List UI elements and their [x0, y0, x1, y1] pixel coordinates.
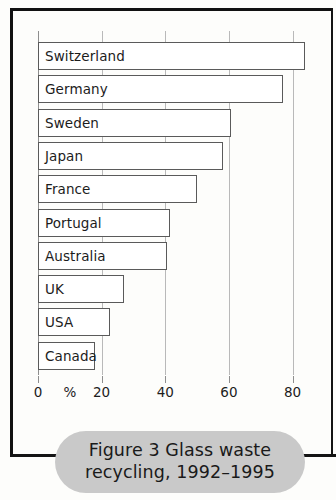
bar-row: Germany	[38, 75, 318, 103]
x-tick-60	[229, 376, 230, 383]
x-tick-label-0: 0	[34, 384, 43, 400]
bar-label-canada: Canada	[45, 342, 97, 370]
figure-caption-text: Figure 3 Glass waste recycling, 1992–199…	[55, 440, 305, 484]
bar-label-uk: UK	[45, 275, 64, 303]
bar-row: Sweden	[38, 109, 318, 137]
bar-row: France	[38, 175, 318, 203]
x-tick-label-20: 20	[93, 384, 110, 400]
x-tick-20	[102, 376, 103, 383]
bar-label-usa: USA	[45, 308, 73, 336]
bar-label-germany: Germany	[45, 75, 108, 103]
x-tick-label-60: 60	[220, 384, 237, 400]
bar-label-switzerland: Switzerland	[45, 42, 125, 70]
figure-page: SwitzerlandGermanySwedenJapanFrancePortu…	[0, 0, 336, 500]
figure-caption-pill: Figure 3 Glass waste recycling, 1992–199…	[55, 431, 305, 493]
bar-row: Australia	[38, 242, 318, 270]
x-tick-0	[38, 376, 39, 383]
bar-row: USA	[38, 308, 318, 336]
x-tick-80	[293, 376, 294, 383]
bar-label-japan: Japan	[45, 142, 83, 170]
figure-frame-right-edge	[331, 8, 333, 456]
x-tick-label-40: 40	[157, 384, 174, 400]
bar-row: Portugal	[38, 209, 318, 237]
bar-row: Switzerland	[38, 42, 318, 70]
bar-label-sweden: Sweden	[45, 109, 99, 137]
x-tick-label-80: 80	[284, 384, 301, 400]
x-tick-40	[165, 376, 166, 383]
bar-label-portugal: Portugal	[45, 209, 102, 237]
bar-row: Japan	[38, 142, 318, 170]
bar-label-france: France	[45, 175, 91, 203]
bar-chart-plot-area: SwitzerlandGermanySwedenJapanFrancePortu…	[38, 31, 318, 376]
x-axis: 020406080%	[38, 376, 328, 406]
x-axis-unit-label: %	[63, 384, 76, 400]
bar-row: Canada	[38, 342, 318, 370]
bar-label-australia: Australia	[45, 242, 106, 270]
bar-row: UK	[38, 275, 318, 303]
